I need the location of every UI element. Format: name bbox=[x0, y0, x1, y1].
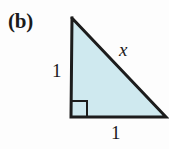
label-horizontal-leg: 1 bbox=[111, 123, 121, 142]
triangle-figure: (b) 1 1 x bbox=[0, 0, 169, 149]
label-hypotenuse: x bbox=[119, 40, 127, 59]
part-label: (b) bbox=[8, 11, 33, 32]
label-vertical-leg: 1 bbox=[52, 61, 62, 80]
